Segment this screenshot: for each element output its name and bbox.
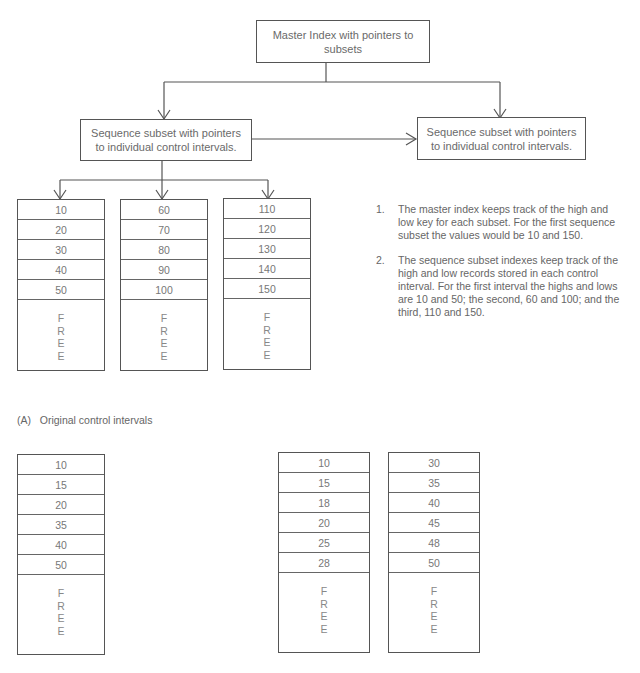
sequence-subset-label: Sequence subset with pointers to individ…	[87, 126, 245, 154]
record: 50	[389, 553, 479, 573]
free-letter: R	[57, 325, 65, 338]
free-space: F R E E	[389, 573, 479, 635]
sequence-subset-label: Sequence subset with pointers to individ…	[424, 125, 579, 153]
free-letter: F	[58, 312, 64, 325]
free-letter: R	[160, 325, 168, 338]
record: 60	[121, 200, 207, 220]
record: 35	[18, 515, 104, 535]
free-letter: E	[320, 610, 327, 623]
free-letter: E	[57, 612, 64, 625]
control-interval-2: 60 70 80 90 100 F R E E	[120, 199, 208, 371]
record: 20	[18, 495, 104, 515]
note-text: The master index keeps track of the high…	[398, 203, 620, 242]
free-letter: R	[263, 324, 271, 337]
free-letter: E	[263, 336, 270, 349]
record: 50	[18, 555, 104, 575]
record: 30	[389, 453, 479, 473]
record: 10	[18, 200, 104, 220]
record: 150	[224, 279, 310, 299]
free-letter: E	[160, 337, 167, 350]
record: 35	[389, 473, 479, 493]
record: 90	[121, 260, 207, 280]
record: 100	[121, 280, 207, 300]
record: 40	[389, 493, 479, 513]
record: 25	[279, 533, 369, 553]
record: 110	[224, 199, 310, 219]
free-letter: E	[57, 337, 64, 350]
free-letter: F	[264, 311, 270, 324]
free-space: F R E E	[121, 300, 207, 362]
free-letter: F	[321, 585, 327, 598]
control-interval-3: 110 120 130 140 150 F R E E	[223, 198, 311, 370]
record: 20	[18, 220, 104, 240]
free-letter: F	[58, 587, 64, 600]
note-1: 1. The master index keeps track of the h…	[376, 203, 636, 248]
control-interval-lower-left: 10 15 20 35 40 50 F R E E	[17, 454, 105, 655]
record: 80	[121, 240, 207, 260]
free-letter: R	[320, 598, 328, 611]
note-2: 2. The sequence subset indexes keep trac…	[376, 254, 636, 324]
record: 15	[279, 473, 369, 493]
free-letter: E	[57, 625, 64, 638]
free-letter: R	[57, 600, 65, 613]
record: 28	[279, 553, 369, 573]
free-space: F R E E	[18, 575, 104, 637]
record: 70	[121, 220, 207, 240]
record: 130	[224, 239, 310, 259]
sequence-subset-box-1: Sequence subset with pointers to individ…	[80, 119, 252, 161]
record: 15	[18, 475, 104, 495]
record: 40	[18, 260, 104, 280]
record: 50	[18, 280, 104, 300]
free-space: F R E E	[279, 573, 369, 635]
record: 140	[224, 259, 310, 279]
record: 48	[389, 533, 479, 553]
sequence-subset-box-2: Sequence subset with pointers to individ…	[417, 117, 586, 160]
free-space: F R E E	[224, 299, 310, 361]
free-letter: E	[160, 350, 167, 363]
record: 40	[18, 535, 104, 555]
free-letter: E	[263, 349, 270, 362]
record: 45	[389, 513, 479, 533]
caption-original-intervals: (A) Original control intervals	[17, 414, 152, 426]
note-number: 1.	[376, 203, 385, 216]
free-letter: F	[431, 585, 437, 598]
record: 10	[18, 455, 104, 475]
master-index-box: Master Index with pointers to subsets	[256, 20, 430, 63]
record: 10	[279, 453, 369, 473]
free-letter: E	[320, 623, 327, 636]
free-letter: R	[430, 598, 438, 611]
record: 18	[279, 493, 369, 513]
split-interval-1: 10 15 18 20 25 28 F R E E	[278, 452, 370, 653]
free-letter: F	[161, 312, 167, 325]
free-space: F R E E	[18, 300, 104, 362]
free-letter: E	[430, 610, 437, 623]
free-letter: E	[57, 350, 64, 363]
free-letter: E	[430, 623, 437, 636]
split-interval-2: 30 35 40 45 48 50 F R E E	[388, 452, 480, 653]
control-interval-1: 10 20 30 40 50 F R E E	[17, 199, 105, 371]
master-index-label: Master Index with pointers to subsets	[257, 28, 429, 56]
record: 120	[224, 219, 310, 239]
note-text: The sequence subset indexes keep track o…	[398, 254, 620, 319]
record: 30	[18, 240, 104, 260]
record: 20	[279, 513, 369, 533]
note-number: 2.	[376, 254, 385, 267]
